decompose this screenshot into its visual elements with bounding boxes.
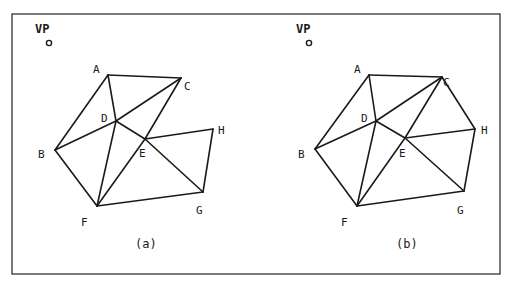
vertex-label-G: G — [457, 204, 464, 217]
vertex-label-H: H — [481, 124, 488, 137]
viewpoint-label: VP — [35, 22, 49, 36]
viewpoint-label: VP — [296, 22, 310, 36]
vertex-label-C: C — [443, 76, 450, 89]
figure-frame — [12, 14, 500, 274]
vertex-label-E: E — [399, 147, 406, 160]
panel-b: ABCDEFGHVP(b) — [296, 22, 488, 251]
edge-EH — [405, 129, 475, 138]
edge-CE — [145, 78, 181, 139]
edge-CE — [405, 77, 442, 138]
edge-EG — [145, 139, 203, 192]
vertex-label-B: B — [38, 148, 45, 161]
vertex-label-F: F — [341, 216, 348, 229]
vertex-label-C: C — [184, 80, 191, 93]
edge-AC — [108, 75, 181, 78]
vertex-label-D: D — [101, 112, 108, 125]
edge-DE — [116, 121, 145, 139]
edge-HG — [203, 129, 213, 192]
edge-BF — [55, 150, 97, 206]
edge-FG — [357, 191, 464, 206]
vertex-label-F: F — [81, 216, 88, 229]
edge-AD — [369, 75, 376, 121]
edge-AD — [108, 75, 116, 121]
vertex-label-D: D — [361, 112, 368, 125]
panel-caption: (a) — [135, 237, 157, 251]
panel-caption: (b) — [396, 237, 418, 251]
vertex-label-B: B — [298, 148, 305, 161]
edge-HG — [464, 129, 475, 191]
vertex-label-E: E — [139, 147, 146, 160]
vertex-label-A: A — [354, 63, 361, 76]
edge-EH — [145, 129, 213, 139]
edge-DE — [376, 121, 405, 138]
edge-EG — [405, 138, 464, 191]
edge-BD — [315, 121, 376, 149]
edge-DC — [116, 78, 181, 121]
panels: ABCDEFGHVP(a)ABCDEFGHVP(b) — [35, 22, 488, 251]
vertex-label-H: H — [218, 124, 225, 137]
edge-FG — [97, 192, 203, 206]
viewpoint-marker-icon — [306, 40, 311, 45]
edge-DC — [376, 77, 442, 121]
edge-BD — [55, 121, 116, 150]
vertex-label-A: A — [93, 63, 100, 76]
edge-BF — [315, 149, 357, 206]
panel-a: ABCDEFGHVP(a) — [35, 22, 225, 251]
triangulation-figure: ABCDEFGHVP(a)ABCDEFGHVP(b) — [0, 0, 509, 283]
vertex-label-G: G — [196, 204, 203, 217]
viewpoint-marker-icon — [46, 40, 51, 45]
edge-AC — [369, 75, 442, 77]
